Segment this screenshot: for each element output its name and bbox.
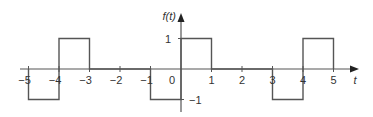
x-tick-label: −1 bbox=[140, 74, 153, 86]
x-tick-label: 4 bbox=[300, 74, 306, 86]
square-wave-chart: −5−4−3−2−10123451−1f(t)t bbox=[0, 0, 373, 117]
x-tick-label: −5 bbox=[18, 74, 31, 86]
x-tick-label: −2 bbox=[110, 74, 123, 86]
y-axis-arrow-icon bbox=[178, 13, 185, 22]
y-tick-label: −1 bbox=[189, 94, 202, 106]
x-tick-label: 1 bbox=[208, 74, 214, 86]
x-tick-label: 3 bbox=[269, 74, 275, 86]
x-tick-label: 5 bbox=[330, 74, 336, 86]
x-axis-title: t bbox=[353, 74, 357, 86]
x-axis-arrow-icon bbox=[350, 66, 359, 73]
axis-labels: −5−4−3−2−10123451−1f(t)t bbox=[18, 10, 357, 106]
x-tick-label: 0 bbox=[169, 74, 175, 86]
x-tick-label: 2 bbox=[239, 74, 245, 86]
x-tick-label: −4 bbox=[49, 74, 62, 86]
y-tick-label: 1 bbox=[165, 33, 171, 45]
x-tick-label: −3 bbox=[79, 74, 92, 86]
y-axis-title: f(t) bbox=[163, 10, 177, 22]
